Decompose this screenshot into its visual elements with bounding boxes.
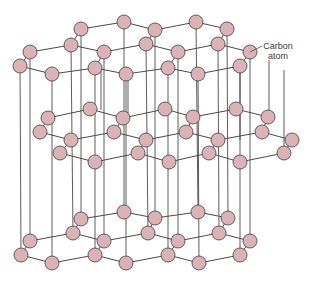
carbon-atom-icon bbox=[191, 67, 205, 81]
carbon-atom-icon bbox=[161, 61, 175, 75]
carbon-atom-icon bbox=[23, 234, 37, 248]
carbon-atom-icon bbox=[285, 133, 299, 147]
carbon-atom-label: Carbon atom bbox=[258, 41, 298, 61]
interlayer-line bbox=[227, 29, 228, 218]
carbon-atom-icon bbox=[191, 205, 205, 219]
carbon-atom-icon bbox=[139, 133, 153, 147]
carbon-atom-icon bbox=[161, 248, 175, 262]
carbon-atom-icon bbox=[23, 45, 37, 59]
carbon-atom-icon bbox=[211, 133, 225, 147]
carbon-atom-icon bbox=[66, 226, 80, 240]
carbon-atom-icon bbox=[83, 102, 97, 116]
carbon-atom-icon bbox=[233, 248, 247, 262]
carbon-atom-icon bbox=[117, 205, 131, 219]
carbon-atom-icon bbox=[211, 37, 225, 51]
carbon-atom-icon bbox=[41, 111, 55, 125]
carbon-atom-icon bbox=[243, 234, 257, 248]
carbon-atom-icon bbox=[233, 155, 247, 169]
interlayer-line bbox=[198, 74, 199, 263]
graphite-diagram: Carbon atom bbox=[0, 0, 311, 283]
label-line-1: Carbon bbox=[258, 41, 298, 51]
carbon-atom-icon bbox=[97, 234, 111, 248]
carbon-atom-icon bbox=[179, 125, 193, 139]
label-line-2: atom bbox=[258, 51, 298, 61]
carbon-atom-icon bbox=[139, 37, 153, 51]
carbon-atom-icon bbox=[261, 110, 275, 124]
carbon-atom-icon bbox=[131, 146, 145, 160]
carbon-atom-icon bbox=[117, 15, 131, 29]
carbon-atom-icon bbox=[14, 248, 28, 262]
carbon-atom-icon bbox=[13, 59, 27, 73]
carbon-atoms bbox=[13, 15, 299, 270]
carbon-atom-icon bbox=[53, 146, 67, 160]
carbon-atom-icon bbox=[221, 211, 235, 225]
carbon-atom-icon bbox=[148, 211, 162, 225]
carbon-atom-icon bbox=[189, 15, 203, 29]
carbon-atom-icon bbox=[162, 155, 176, 169]
carbon-atom-icon bbox=[255, 125, 269, 139]
carbon-atom-icon bbox=[119, 256, 133, 270]
carbon-atom-icon bbox=[277, 146, 291, 160]
carbon-atom-icon bbox=[74, 22, 88, 36]
carbon-atom-icon bbox=[220, 22, 234, 36]
carbon-atom-icon bbox=[233, 59, 247, 73]
carbon-atom-icon bbox=[119, 67, 133, 81]
carbon-atom-icon bbox=[74, 212, 88, 226]
carbon-atom-icon bbox=[45, 67, 59, 81]
carbon-atom-icon bbox=[88, 248, 102, 262]
carbon-atom-icon bbox=[64, 38, 78, 52]
carbon-atom-icon bbox=[192, 256, 206, 270]
carbon-atom-icon bbox=[202, 146, 216, 160]
carbon-atom-icon bbox=[33, 125, 47, 139]
carbon-atom-icon bbox=[186, 110, 200, 124]
carbon-atom-icon bbox=[88, 155, 102, 169]
carbon-atom-icon bbox=[158, 102, 172, 116]
carbon-atom-icon bbox=[229, 102, 243, 116]
carbon-atom-icon bbox=[45, 256, 59, 270]
carbon-atom-icon bbox=[148, 23, 162, 37]
carbon-atom-icon bbox=[64, 133, 78, 147]
carbon-atom-icon bbox=[88, 61, 102, 75]
carbon-atom-icon bbox=[212, 226, 226, 240]
interlayer-line bbox=[20, 66, 21, 255]
carbon-atom-icon bbox=[171, 45, 185, 59]
carbon-atom-icon bbox=[107, 125, 121, 139]
carbon-atom-icon bbox=[171, 234, 185, 248]
carbon-atom-icon bbox=[141, 226, 155, 240]
carbon-atom-icon bbox=[116, 111, 130, 125]
carbon-atom-icon bbox=[97, 45, 111, 59]
